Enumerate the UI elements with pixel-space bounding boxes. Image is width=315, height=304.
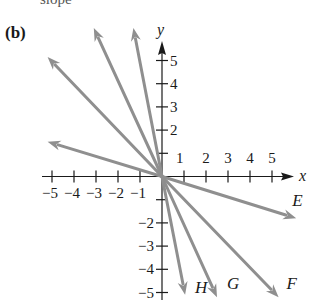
y-tick-label: 2: [170, 122, 178, 138]
vector-shaft: [98, 38, 162, 176]
vector-label-F: F: [286, 274, 298, 293]
y-tick-label: −3: [138, 238, 154, 254]
vector-shaft: [162, 177, 183, 285]
vector-label-E: E: [291, 191, 303, 210]
y-tick-label: 5: [170, 53, 178, 69]
x-tick-label: −4: [64, 185, 80, 201]
x-tick-label: 2: [202, 150, 210, 166]
x-axis-label: x: [298, 167, 306, 184]
x-tick-label: 4: [246, 150, 254, 166]
vector-label-G: G: [227, 274, 239, 293]
vector-unlabeled-3: [94, 28, 162, 176]
x-tick-label: −2: [108, 185, 124, 201]
y-tick-label: 4: [170, 76, 178, 92]
x-tick-label: 5: [268, 150, 276, 166]
vector-shaft: [162, 177, 212, 288]
x-tick-label: 3: [224, 150, 232, 166]
x-tick-label: −5: [42, 185, 58, 201]
y-tick-label: 3: [170, 99, 178, 115]
vector-unlabeled-4: [131, 28, 162, 176]
cropped-heading-text: slope: [40, 0, 72, 7]
vector-diagram: slope (b) x y 1 −5−4−3−2−12345 5432−2−3−…: [0, 0, 315, 304]
y-axis-label: y: [155, 21, 165, 39]
x-tick-label: −3: [86, 185, 102, 201]
y-tick-label: −2: [138, 215, 154, 231]
panel-label: (b): [5, 23, 26, 42]
vector-shaft: [135, 39, 162, 177]
axes: x y 1 −5−4−3−2−12345 5432−2−3−4−5: [42, 21, 306, 301]
y-axis-arrowhead: [158, 41, 166, 55]
y-tick-label: −4: [138, 261, 154, 277]
x-tick-label: −1: [130, 185, 146, 201]
vector-label-H: H: [194, 278, 209, 297]
tick-label-one: 1: [176, 150, 184, 166]
y-tick-label: −5: [138, 285, 154, 301]
